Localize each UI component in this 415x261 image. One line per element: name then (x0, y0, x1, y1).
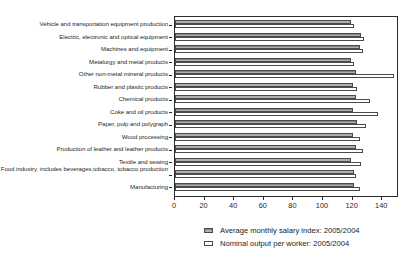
x-axis-tick-label: 20 (199, 201, 207, 210)
category-tick (169, 112, 172, 113)
legend-label: Nominal output per worker: 2005/2004 (220, 239, 349, 248)
x-axis-tick-label: 0 (172, 201, 176, 210)
bar-output (175, 187, 360, 191)
category-tick (169, 75, 172, 76)
bar-output (175, 74, 394, 78)
category-tick (169, 137, 172, 138)
x-axis-tick (352, 197, 353, 200)
category-tick (169, 100, 172, 101)
category-tick (169, 87, 172, 88)
category-label: Other non-metal mineral products (79, 71, 168, 78)
category-label: Metalurgy and metal products (89, 59, 168, 66)
legend-item-salary: Average monthly salary index: 2005/2004 (204, 224, 414, 237)
category-tick (169, 37, 172, 38)
category-tick (169, 50, 172, 51)
category-tick (169, 125, 172, 126)
category-label: Machines and equipment (101, 46, 168, 53)
x-axis-tick-label: 120 (345, 201, 357, 210)
category-tick (169, 25, 172, 26)
x-axis-tick (233, 197, 234, 200)
bar-output (175, 124, 366, 128)
chart-legend: Average monthly salary index: 2005/2004 … (204, 224, 414, 250)
x-axis-tick (174, 197, 175, 200)
bar-output (175, 49, 363, 53)
category-label: Vehicle and transportation equipment pro… (40, 21, 168, 28)
category-label: Manufacturing (130, 184, 168, 191)
x-axis-tick-label: 60 (259, 201, 267, 210)
x-axis-tick (381, 197, 382, 200)
bars-layer (175, 17, 397, 196)
x-axis-tick (263, 197, 264, 200)
category-tick (169, 175, 172, 176)
bar-output (175, 149, 363, 153)
legend-item-output: Nominal output per worker: 2005/2004 (204, 237, 414, 250)
x-axis-tick (322, 197, 323, 200)
bar-output (175, 24, 354, 28)
category-label: Rubber and plastic products (93, 84, 168, 91)
bar-output (175, 112, 378, 116)
category-tick (169, 62, 172, 63)
category-label: Coke and oil products (110, 109, 168, 116)
category-tick (169, 150, 172, 151)
bar-output (175, 62, 354, 66)
category-label: Paper, pulp and polygraph (98, 121, 168, 128)
x-axis-tick-label: 40 (229, 201, 237, 210)
bar-output (175, 37, 364, 41)
bar-output (175, 174, 356, 178)
bar-output (175, 99, 370, 103)
category-label: Food industry, includes beverages,tobacc… (0, 166, 168, 173)
category-label: Production of leather and leather produc… (57, 146, 168, 153)
x-axis: 020406080100120140 (174, 197, 398, 213)
legend-swatch-icon (204, 241, 213, 246)
x-axis-tick (204, 197, 205, 200)
legend-label: Average monthly salary index: 2005/2004 (220, 226, 360, 235)
category-label: Chemical products (118, 96, 168, 103)
x-axis-tick-label: 80 (288, 201, 296, 210)
legend-swatch-icon (204, 228, 213, 233)
category-axis-labels: Vehicle and transportation equipment pro… (0, 22, 172, 194)
category-tick (169, 162, 172, 163)
category-label: Electric, electronic and optical equipme… (59, 34, 168, 41)
x-axis-tick-label: 100 (316, 201, 328, 210)
bar-output (175, 87, 357, 91)
bar-output (175, 137, 360, 141)
bar-chart: Vehicle and transportation equipment pro… (0, 0, 415, 261)
x-axis-tick-label: 140 (375, 201, 387, 210)
category-label: Wood processing (122, 134, 168, 141)
x-axis-tick (292, 197, 293, 200)
category-tick (169, 187, 172, 188)
bar-output (175, 162, 361, 166)
